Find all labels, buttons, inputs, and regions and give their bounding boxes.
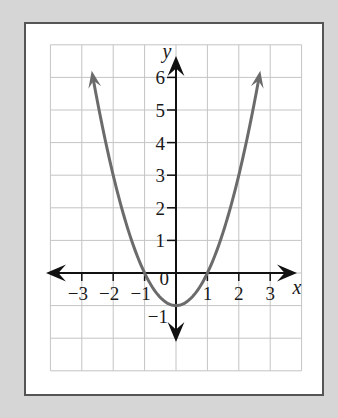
origin-label: 0 — [160, 268, 170, 289]
x-axis-label: x — [292, 276, 302, 298]
x-tick-label: −1 — [130, 283, 150, 304]
x-tick-label: 3 — [265, 283, 275, 304]
y-tick-label: 1 — [156, 230, 166, 251]
parabola-chart: −3−2−1123−11234560xy — [0, 0, 338, 418]
x-tick-label: 1 — [203, 283, 213, 304]
y-tick-label: 3 — [156, 165, 166, 186]
y-tick-label: 5 — [156, 100, 166, 121]
x-tick-label: −2 — [99, 283, 119, 304]
x-tick-label: 2 — [234, 283, 244, 304]
y-tick-label: 6 — [156, 67, 166, 88]
x-tick-label: −3 — [68, 283, 88, 304]
y-tick-label: 2 — [156, 198, 166, 219]
y-axis-label: y — [161, 40, 172, 63]
y-tick-label: 4 — [156, 133, 166, 154]
y-tick-label: −1 — [148, 306, 168, 327]
tick-labels: −3−2−1123−11234560xy — [68, 40, 302, 327]
